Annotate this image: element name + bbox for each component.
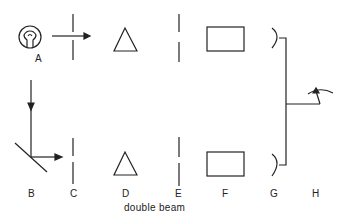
arrow-down-icon — [28, 103, 34, 110]
label-f: F — [222, 188, 228, 199]
detector-connection-wire — [279, 38, 286, 165]
label-a: A — [35, 53, 42, 64]
label-e: E — [175, 188, 182, 199]
detector-bottom-icon — [272, 154, 277, 176]
label-b: B — [28, 188, 35, 199]
meter-scale-icon — [308, 90, 333, 94]
prism-top-icon — [114, 28, 137, 51]
diagram-caption: double beam — [124, 202, 185, 213]
label-h: H — [312, 188, 319, 199]
arrow-head-icon — [55, 154, 62, 160]
needle-arrow-icon — [313, 88, 319, 93]
detector-top-icon — [272, 28, 277, 48]
prism-bottom-icon — [114, 152, 137, 175]
sample-cell-bottom-icon — [207, 152, 244, 176]
sample-cell-top-icon — [207, 27, 244, 51]
double-beam-diagram — [0, 0, 343, 218]
arrow-head-icon — [84, 33, 90, 39]
label-g: G — [270, 188, 278, 199]
label-d: D — [122, 188, 129, 199]
light-source-icon — [19, 26, 41, 48]
label-c: C — [70, 188, 77, 199]
